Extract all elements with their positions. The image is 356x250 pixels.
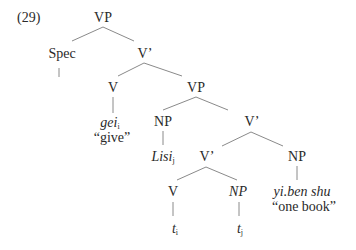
leaf-gei-word: gei — [100, 115, 117, 130]
leaf-lisi-index: j — [172, 156, 174, 165]
node-v-lower: V — [168, 184, 178, 200]
trace-v-index: i — [176, 228, 178, 237]
node-vp-root: VP — [94, 10, 112, 26]
node-np-trace: NP — [229, 184, 247, 200]
leaf-lisi: Lisij — [151, 149, 174, 169]
leaf-trace-v: ti — [172, 221, 178, 241]
example-number: (29) — [17, 10, 40, 26]
node-vbar-1: V’ — [138, 46, 153, 62]
gloss-give: “give” — [94, 130, 131, 146]
trace-np-index: j — [241, 228, 243, 237]
leaf-lisi-word: Lisi — [151, 149, 172, 164]
node-np-obj: NP — [288, 149, 306, 165]
node-vp-inner: VP — [187, 80, 205, 96]
node-spec: Spec — [48, 46, 75, 62]
node-v-head: V — [108, 80, 118, 96]
node-vbar-3: V’ — [200, 149, 215, 165]
node-np-lisi: NP — [154, 114, 172, 130]
leaf-yibenshu: yi.ben shu — [274, 184, 331, 200]
node-vbar-2: V’ — [245, 114, 260, 130]
gloss-one-book: “one book” — [272, 199, 336, 215]
leaf-trace-np: tj — [237, 221, 243, 241]
